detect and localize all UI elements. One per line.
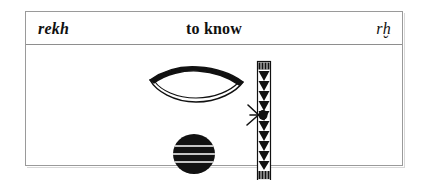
strip-cap-top bbox=[259, 63, 270, 70]
mouth-glyph bbox=[146, 67, 246, 103]
glyph-card: rekh to know rḫ bbox=[25, 11, 403, 166]
mouth-upper-stroke bbox=[150, 67, 243, 85]
mouth-lower-outer bbox=[150, 80, 243, 102]
hieroglyph-canvas bbox=[26, 45, 402, 166]
transliteration-egyptological-label: rḫ bbox=[376, 16, 391, 42]
placenta-disc-svg bbox=[172, 133, 216, 175]
meaning-label: to know bbox=[26, 16, 402, 42]
folded-cloth-strip-glyph bbox=[254, 61, 278, 180]
placenta-disc-glyph bbox=[172, 133, 216, 175]
crossed-sticks-knot bbox=[259, 110, 268, 120]
card-header: rekh to know rḫ bbox=[26, 12, 402, 44]
folded-cloth-strip-svg bbox=[254, 61, 278, 180]
strip-cap-bottom bbox=[259, 171, 270, 179]
mouth-glyph-svg bbox=[146, 67, 246, 103]
screenshot-root: rekh to know rḫ bbox=[0, 0, 427, 180]
